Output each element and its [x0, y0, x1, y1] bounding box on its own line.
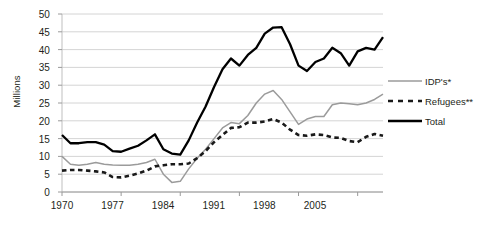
legend-markers — [388, 81, 422, 121]
refugees-idp-line-chart: Millions 50 45 40 35 30 25 20 15 10 5 0 … — [0, 0, 489, 225]
series-line-total — [62, 27, 383, 154]
plot-svg — [0, 0, 489, 225]
y-tick-marks — [58, 14, 62, 192]
x-tick-marks — [62, 192, 358, 196]
series-layer — [62, 27, 383, 182]
